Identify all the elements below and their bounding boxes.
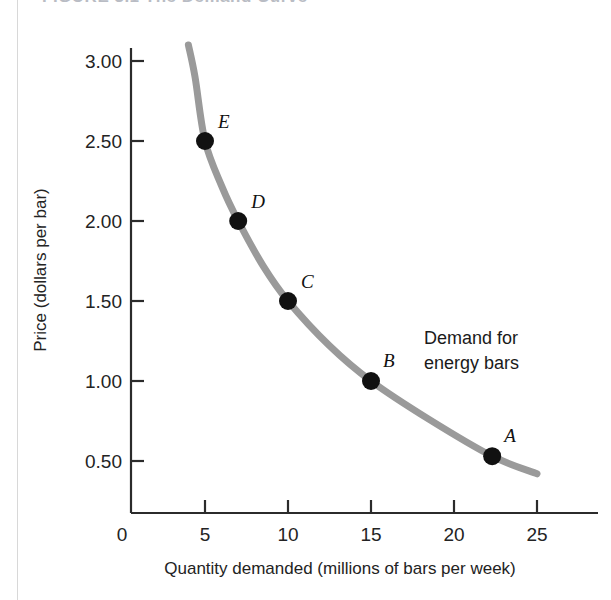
demand-curve-plot: 3.00 2.50 2.00 1.50 1.00 0.50 Price (dol… [0, 0, 611, 600]
y-tick-label-1-50: 1.50 [85, 291, 122, 312]
data-point-d [229, 212, 247, 230]
data-point-label-c: C [301, 271, 314, 292]
demand-curve-line [188, 45, 537, 474]
demand-curve-figure: FIGURE 3.1 The Demand Curve 3.00 2.50 2.… [0, 0, 611, 600]
y-axis-ticks [131, 61, 144, 461]
y-tick-label-0-50: 0.50 [85, 451, 122, 472]
x-tick-label-5: 5 [200, 524, 211, 545]
y-tick-label-1-00: 1.00 [85, 371, 122, 392]
data-point-c [279, 292, 297, 310]
data-point-b [362, 372, 380, 390]
x-tick-label-15: 15 [360, 524, 381, 545]
x-tick-label-0: 0 [117, 524, 128, 545]
x-tick-label-20: 20 [443, 524, 464, 545]
annotation-line-2: energy bars [424, 353, 519, 373]
data-point-label-b: B [383, 350, 395, 371]
x-axis-tick-labels: 0 5 10 15 20 25 [117, 524, 548, 545]
data-point-markers: ABCDE [196, 111, 516, 465]
y-tick-label-3-00: 3.00 [85, 51, 122, 72]
data-point-a [483, 447, 501, 465]
x-tick-label-25: 25 [526, 524, 547, 545]
data-point-e [196, 132, 214, 150]
data-point-label-e: E [217, 111, 230, 132]
y-tick-label-2-00: 2.00 [85, 211, 122, 232]
y-tick-label-2-50: 2.50 [85, 131, 122, 152]
data-point-label-d: D [250, 191, 265, 212]
annotation-line-1: Demand for [424, 328, 518, 348]
y-axis-tick-labels: 3.00 2.50 2.00 1.50 1.00 0.50 [85, 51, 122, 472]
x-axis-title: Quantity demanded (millions of bars per … [164, 559, 516, 578]
data-point-label-a: A [502, 425, 516, 446]
curve-annotation: Demand for energy bars [424, 328, 519, 373]
y-axis-title: Price (dollars per bar) [31, 188, 50, 351]
x-axis-ticks [205, 500, 537, 513]
x-tick-label-10: 10 [277, 524, 298, 545]
